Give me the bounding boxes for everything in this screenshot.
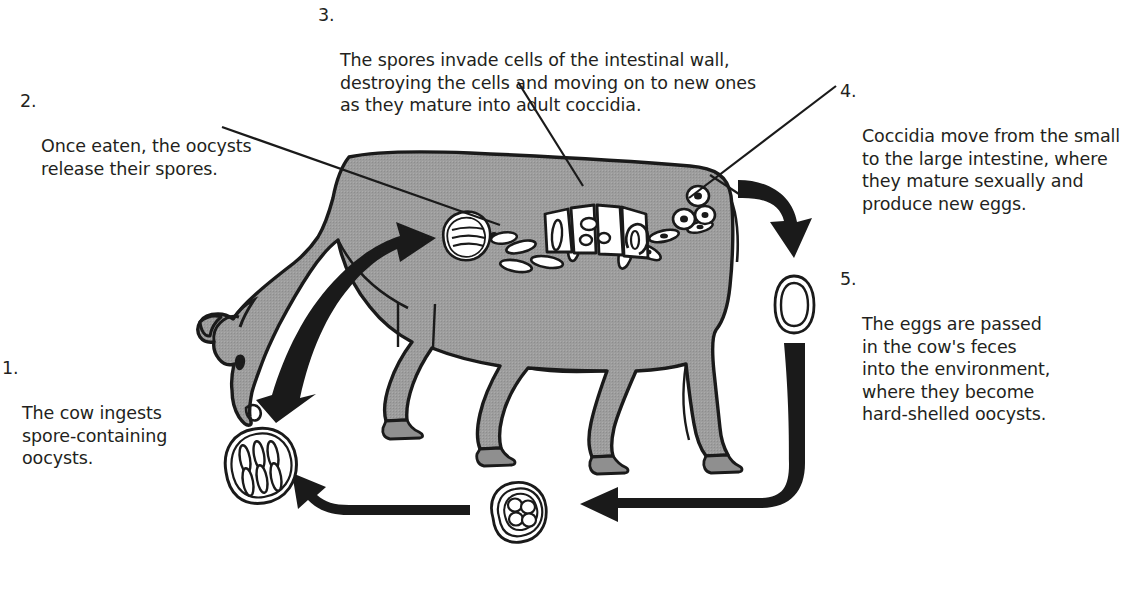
- diagram-canvas: 1. The cow ingests spore-containing oocy…: [0, 0, 1123, 591]
- sporulating-oocyst: [492, 482, 547, 542]
- step-2-label: 2. Once eaten, the oocysts release their…: [20, 90, 252, 203]
- step-2-text: Once eaten, the oocysts release their sp…: [41, 135, 252, 180]
- intestinal-wall-cells: [545, 205, 648, 258]
- step-3-text: The spores invade cells of the intestina…: [340, 49, 756, 117]
- step-5-label: 5. The eggs are passed in the cow's fece…: [840, 268, 1050, 448]
- cycle-arrow-down-right: [738, 180, 812, 258]
- cycle-arrow-bottom-left: [292, 473, 470, 515]
- step-3-number: 3.: [318, 4, 335, 27]
- step-3-label: 3. The spores invade cells of the intest…: [318, 4, 756, 139]
- step-1-number: 1.: [2, 357, 19, 380]
- step-5-text: The eggs are passed in the cow's feces i…: [862, 313, 1050, 426]
- step-4-label: 4. Coccidia move from the small to the l…: [840, 80, 1120, 238]
- step-1-label: 1. The cow ingests spore-containing oocy…: [2, 357, 167, 492]
- cow-body: [198, 152, 742, 474]
- step-4-number: 4.: [840, 80, 857, 103]
- step-4-text: Coccidia move from the small to the larg…: [862, 125, 1120, 215]
- excreted-oocyst: [775, 276, 814, 333]
- step-1-text: The cow ingests spore-containing oocysts…: [22, 402, 167, 470]
- step-2-number: 2.: [20, 90, 37, 113]
- sporulated-oocyst: [225, 428, 296, 503]
- step-5-number: 5.: [840, 268, 857, 291]
